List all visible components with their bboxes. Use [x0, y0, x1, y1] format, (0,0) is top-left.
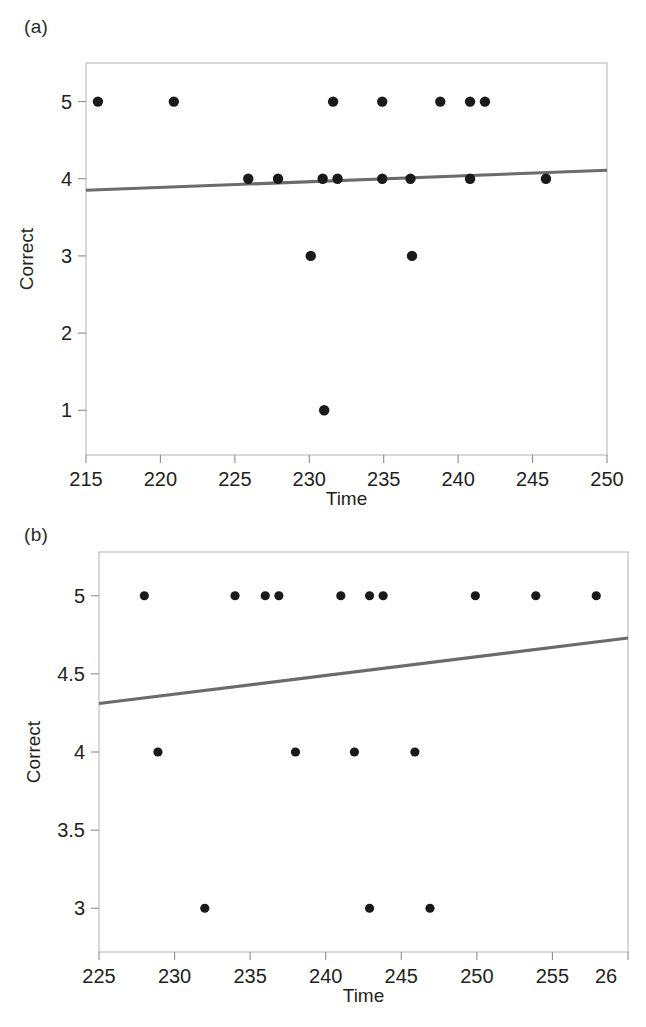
data-point — [365, 591, 374, 600]
chart-group: 2252302352402452502552633.544.55TimeCorr… — [23, 552, 628, 1006]
data-point — [410, 747, 419, 756]
x-tick-label: 250 — [460, 965, 493, 987]
x-tick-label: 26 — [595, 965, 617, 987]
x-tick-label: 225 — [82, 965, 115, 987]
panel-a: (a) 21522022523023524024525012345TimeCor… — [0, 0, 646, 512]
x-tick-label: 225 — [218, 468, 251, 490]
x-axis-title: Time — [343, 985, 385, 1006]
y-tick-label: 3 — [74, 897, 85, 919]
data-point — [350, 747, 359, 756]
x-tick-label: 245 — [385, 965, 418, 987]
data-point — [328, 96, 338, 106]
x-tick-label: 235 — [233, 965, 266, 987]
data-point — [365, 904, 374, 913]
data-point — [531, 591, 540, 600]
data-point — [169, 96, 179, 106]
x-tick-label: 245 — [516, 468, 549, 490]
data-point — [93, 96, 103, 106]
regression-line — [86, 170, 607, 190]
x-tick-label: 230 — [158, 965, 191, 987]
data-point — [261, 591, 270, 600]
data-point — [379, 591, 388, 600]
chart-group: 21522022523023524024525012345TimeCorrect — [16, 63, 624, 509]
y-tick-label: 4 — [61, 168, 72, 190]
data-point — [291, 747, 300, 756]
data-point — [274, 591, 283, 600]
y-axis-title: Correct — [16, 227, 37, 290]
data-point — [377, 96, 387, 106]
panel-b: (b) 2252302352402452502552633.544.55Time… — [0, 512, 646, 1027]
y-tick-label: 4.5 — [57, 663, 85, 685]
y-tick-label: 2 — [61, 322, 72, 344]
data-point — [465, 174, 475, 184]
y-tick-label: 3.5 — [57, 819, 85, 841]
x-tick-label: 235 — [367, 468, 400, 490]
data-point — [243, 174, 253, 184]
x-tick-label: 230 — [293, 468, 326, 490]
plot-frame — [99, 552, 628, 952]
data-point — [230, 591, 239, 600]
panel-b-plot-area: 2252302352402452502552633.544.55TimeCorr… — [0, 512, 646, 992]
y-tick-label: 5 — [61, 91, 72, 113]
data-point — [336, 591, 345, 600]
data-point — [200, 904, 209, 913]
x-axis-title: Time — [326, 488, 368, 509]
data-point — [377, 174, 387, 184]
x-tick-label: 240 — [309, 965, 342, 987]
data-point — [480, 96, 490, 106]
data-point — [153, 747, 162, 756]
data-point — [465, 96, 475, 106]
data-point — [317, 174, 327, 184]
scatter-chart-b: 2252302352402452502552633.544.55TimeCorr… — [0, 512, 646, 1027]
x-tick-label: 215 — [69, 468, 102, 490]
data-point — [592, 591, 601, 600]
data-point — [407, 251, 417, 261]
data-point — [541, 174, 551, 184]
y-tick-label: 4 — [74, 741, 85, 763]
x-tick-label: 240 — [441, 468, 474, 490]
panel-a-plot-area: 21522022523023524024525012345TimeCorrect — [0, 0, 646, 470]
data-point — [273, 174, 283, 184]
y-tick-label: 5 — [74, 585, 85, 607]
y-tick-label: 3 — [61, 245, 72, 267]
data-point — [319, 405, 329, 415]
figure-two-scatter-panels: (a) 21522022523023524024525012345TimeCor… — [0, 0, 646, 1027]
data-point — [425, 904, 434, 913]
data-point — [332, 174, 342, 184]
scatter-chart-a: 21522022523023524024525012345TimeCorrect — [0, 0, 646, 512]
x-tick-label: 250 — [590, 468, 623, 490]
data-point — [140, 591, 149, 600]
y-axis-title: Correct — [23, 720, 44, 783]
data-point — [435, 96, 445, 106]
data-point — [405, 174, 415, 184]
x-tick-label: 220 — [144, 468, 177, 490]
data-point — [306, 251, 316, 261]
plot-frame — [86, 63, 607, 455]
x-tick-label: 255 — [536, 965, 569, 987]
data-point — [471, 591, 480, 600]
y-tick-label: 1 — [61, 399, 72, 421]
regression-line — [99, 638, 628, 704]
